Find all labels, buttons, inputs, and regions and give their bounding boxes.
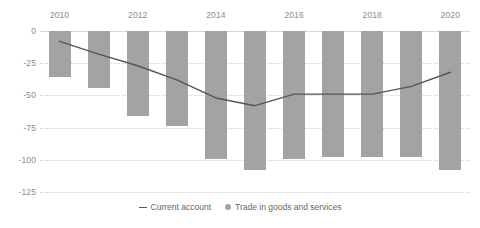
- x-axis-tick-label: 2014: [196, 11, 236, 20]
- legend-label-trade-in-goods-and-services: Trade in goods and services: [235, 203, 341, 212]
- y-axis-tick-label: 0: [2, 27, 36, 36]
- y-axis-tick-label: -75: [2, 124, 36, 133]
- x-axis-tick-label: 2012: [118, 11, 158, 20]
- y-axis-tick-label: -25: [2, 59, 36, 68]
- legend-label-current-account: Current account: [151, 203, 211, 212]
- x-axis-tick-label: 2020: [430, 11, 470, 20]
- line-marker-icon: [139, 207, 147, 208]
- dot-marker-icon: [225, 204, 231, 210]
- current-account-line: [60, 41, 451, 105]
- legend-item-current-account[interactable]: Current account: [139, 203, 211, 212]
- x-axis-tick-label: 2018: [352, 11, 392, 20]
- chart-container: 0-25-50-75-100-125 201020122014201620182…: [0, 0, 480, 228]
- gridline--125: [40, 192, 470, 193]
- y-axis-tick-label: -100: [2, 156, 36, 165]
- line-series-current-account: [40, 31, 470, 192]
- plot-area: [40, 31, 470, 192]
- chart-legend: Current account Trade in goods and servi…: [0, 203, 480, 212]
- x-axis-tick-label: 2010: [40, 11, 80, 20]
- x-axis-tick-label: 2016: [274, 11, 314, 20]
- legend-item-trade-in-goods-and-services[interactable]: Trade in goods and services: [225, 203, 341, 212]
- y-axis-tick-label: -125: [2, 188, 36, 197]
- y-axis-tick-label: -50: [2, 91, 36, 100]
